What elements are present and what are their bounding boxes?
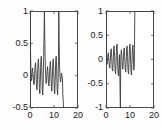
left-xtick-label-10: 10 [46, 111, 62, 120]
left-ytick-label-0.5: 0.5 [2, 39, 28, 48]
right-xtick-label-0: 0 [98, 111, 114, 120]
right-xtick-label-20: 20 [146, 111, 162, 120]
left-ytick-label-1: 1 [2, 7, 28, 16]
right-ytick-label-1: 1 [81, 7, 103, 16]
right-ytick-label-0: 0 [81, 55, 103, 64]
left-plot-panel: 1 0.5 0 -0.5 0 10 20 [0, 0, 81, 130]
left-xtick-label-0: 0 [22, 111, 38, 120]
right-ytick-label-0.5: 0.5 [81, 31, 103, 40]
right-xtick-label-10: 10 [122, 111, 138, 120]
figure-canvas: 1 0.5 0 -0.5 0 10 20 1 0.5 0 -0.5 -1 0 1… [0, 0, 162, 130]
left-ytick-label-0: 0 [2, 71, 28, 80]
right-ytick-label-neg0.5: -0.5 [81, 79, 103, 88]
right-plot-panel: 1 0.5 0 -0.5 -1 0 10 20 [81, 0, 162, 130]
